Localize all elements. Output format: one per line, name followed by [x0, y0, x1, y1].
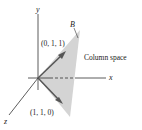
z-axis-label: z	[3, 117, 8, 126]
vector-label-011: (0, 1, 1)	[41, 39, 65, 48]
plane-label: B	[70, 20, 75, 29]
y-axis-label: y	[35, 5, 40, 14]
vector-label-110: (1, 1, 0)	[30, 108, 54, 117]
region-label: Column space	[84, 53, 127, 62]
column-space-diagram: y x z B (0, 1, 1) Column space (1, 1, 0)	[0, 0, 142, 130]
x-axis-label: x	[108, 73, 113, 82]
